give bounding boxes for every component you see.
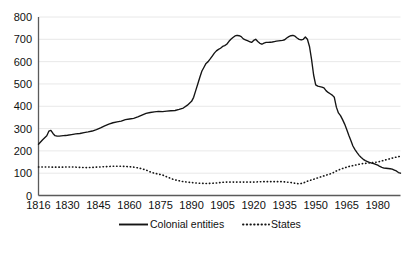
x-tick-label-1905: 1905 bbox=[210, 199, 234, 211]
x-tick-label-1816: 1816 bbox=[26, 199, 50, 211]
y-tick-label-700: 700 bbox=[14, 33, 32, 45]
x-tick-label-1830: 1830 bbox=[55, 199, 79, 211]
gridlines-group bbox=[39, 17, 401, 173]
legend: Colonial entitiesStates bbox=[119, 218, 301, 230]
x-tick-label-1875: 1875 bbox=[148, 199, 172, 211]
y-tick-label-300: 300 bbox=[14, 123, 32, 135]
legend-label: Colonial entities bbox=[150, 218, 224, 230]
x-tick-label-1950: 1950 bbox=[303, 199, 327, 211]
series-group bbox=[39, 35, 401, 184]
x-tick-label-1965: 1965 bbox=[334, 199, 358, 211]
y-tick-label-200: 200 bbox=[14, 145, 32, 157]
chart-container: 0100200300400500600700800 18161830184518… bbox=[0, 0, 413, 253]
y-axis-tick-labels: 0100200300400500600700800 bbox=[14, 11, 32, 202]
y-tick-label-100: 100 bbox=[14, 167, 32, 179]
x-tick-label-1890: 1890 bbox=[179, 199, 203, 211]
x-tick-label-1860: 1860 bbox=[117, 199, 141, 211]
x-tick-label-1845: 1845 bbox=[86, 199, 110, 211]
legend-item-states[interactable]: States bbox=[243, 218, 301, 230]
series-line-states bbox=[39, 156, 401, 184]
x-tick-label-1920: 1920 bbox=[241, 199, 265, 211]
line-chart: 0100200300400500600700800 18161830184518… bbox=[0, 0, 413, 253]
legend-item-colonial-entities[interactable]: Colonial entities bbox=[119, 218, 224, 230]
y-tick-label-600: 600 bbox=[14, 56, 32, 68]
x-tick-label-1935: 1935 bbox=[272, 199, 296, 211]
x-tick-label-1980: 1980 bbox=[366, 199, 390, 211]
y-tick-label-500: 500 bbox=[14, 78, 32, 90]
x-axis-tick-labels: 1816183018451860187518901905192019351950… bbox=[26, 199, 390, 211]
y-tick-label-800: 800 bbox=[14, 11, 32, 23]
legend-label: States bbox=[271, 218, 301, 230]
series-line-colonial-entities bbox=[39, 35, 401, 173]
y-tick-label-400: 400 bbox=[14, 100, 32, 112]
